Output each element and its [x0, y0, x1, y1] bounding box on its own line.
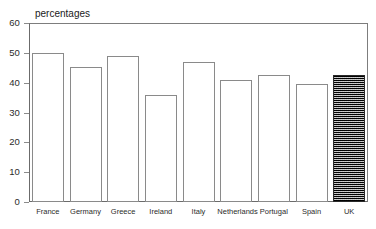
x-axis-label-netherlands: Netherlands	[217, 207, 255, 217]
x-axis-label-france: France	[29, 207, 67, 217]
bar-ireland	[145, 95, 177, 202]
y-axis-tick-label: 60	[9, 17, 20, 28]
x-axis-label-ireland: Ireland	[142, 207, 180, 217]
y-axis-tick-label: 0	[15, 196, 20, 207]
y-axis-tick-label: 10	[9, 166, 20, 177]
y-axis-tick-label: 50	[9, 47, 20, 58]
bar-germany	[70, 67, 102, 202]
x-axis-label-italy: Italy	[180, 207, 218, 217]
y-axis-tick-label: 20	[9, 136, 20, 147]
bar-spain	[296, 84, 328, 202]
bar-chart: percentages 0102030405060 FranceGermanyG…	[0, 0, 376, 229]
bar-france	[32, 53, 64, 202]
bar-portugal	[258, 75, 290, 202]
bar-greece	[107, 56, 139, 202]
x-axis: FranceGermanyGreeceIrelandItalyNetherlan…	[29, 203, 368, 227]
x-axis-label-greece: Greece	[104, 207, 142, 217]
chart-title: percentages	[35, 8, 90, 20]
y-axis: 0102030405060	[0, 0, 29, 229]
y-axis-tick-label: 40	[9, 77, 20, 88]
x-axis-label-spain: Spain	[293, 207, 331, 217]
x-axis-label-portugal: Portugal	[255, 207, 293, 217]
bar-italy	[183, 62, 215, 202]
bar-netherlands	[220, 80, 252, 202]
y-axis-tick-label: 30	[9, 107, 20, 118]
x-axis-label-uk: UK	[330, 207, 368, 217]
bars-layer	[29, 23, 368, 202]
x-axis-label-germany: Germany	[67, 207, 105, 217]
bar-uk	[333, 75, 365, 202]
